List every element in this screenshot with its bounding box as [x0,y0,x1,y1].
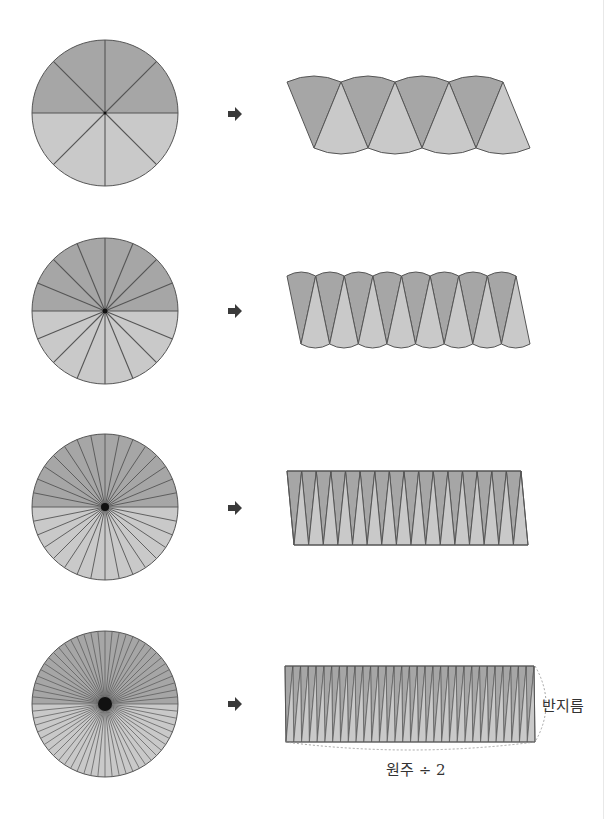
rearranged-shape-16 [287,272,530,348]
circumference-brace [285,742,535,750]
right-arrow-icon [228,107,242,121]
half-circumference-label: 원주 ÷ 2 [386,758,446,779]
rearranged-shape-64 [285,666,546,750]
row-4 [32,631,546,777]
center-dot [104,112,107,115]
center-dot [101,503,109,511]
center-dot [103,309,108,314]
center-dot [98,697,112,711]
row-3 [32,434,528,580]
right-arrow-icon [228,304,242,318]
divided-circle-8 [32,40,178,186]
diagram-canvas [0,0,612,819]
divided-circle-64 [32,631,178,777]
row-2 [32,238,530,384]
rearranged-shape-32 [287,471,528,545]
page-edge [603,0,604,819]
circle-area-diagram: 반지름 원주 ÷ 2 [0,0,612,819]
right-arrow-icon [228,697,242,711]
rearranged-shape-8 [287,76,530,154]
divided-circle-16 [32,238,178,384]
divided-circle-32 [32,434,178,580]
row-1 [32,40,530,186]
right-arrow-icon [228,501,242,515]
radius-label: 반지름 [542,694,584,715]
